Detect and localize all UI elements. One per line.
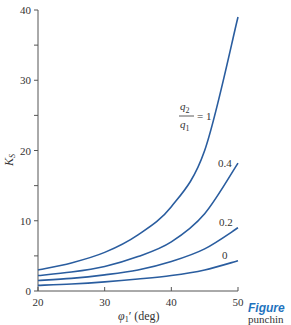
y-tick-label: 0: [26, 285, 32, 297]
curve-label-0.4: 0.4: [218, 157, 232, 169]
label-q1: q1: [180, 118, 190, 133]
curve-label-0.2: 0.2: [219, 216, 233, 228]
curve-0: [38, 17, 238, 270]
label-eq-1: = 1: [197, 110, 211, 122]
y-ticks: 010203040: [20, 4, 38, 297]
y-tick-label: 40: [20, 4, 32, 16]
x-axis-label: φ1′ (deg): [118, 309, 160, 324]
curve-label-0: 0: [222, 249, 228, 261]
x-tick-label: 40: [166, 296, 178, 308]
x-tick-label: 20: [33, 296, 45, 308]
y-tick-label: 20: [20, 145, 32, 157]
axes: [38, 10, 238, 291]
y-tick-label: 30: [20, 74, 32, 86]
x-tick-label: 30: [99, 296, 111, 308]
curves: [38, 17, 238, 285]
y-axis-label: KS: [2, 154, 17, 167]
chart-svg: 010203040 20304050 q2 q1 = 1 0.4 0.2 0 K…: [0, 0, 291, 325]
label-q2: q2: [180, 100, 190, 115]
x-tick-label: 50: [233, 296, 245, 308]
x-ticks: 20304050: [33, 287, 245, 308]
curve-1: [38, 163, 238, 275]
curve-label-q1: q2 q1 = 1: [179, 100, 211, 133]
figure-caption-text: punchin: [248, 313, 283, 325]
y-tick-label: 10: [20, 215, 32, 227]
